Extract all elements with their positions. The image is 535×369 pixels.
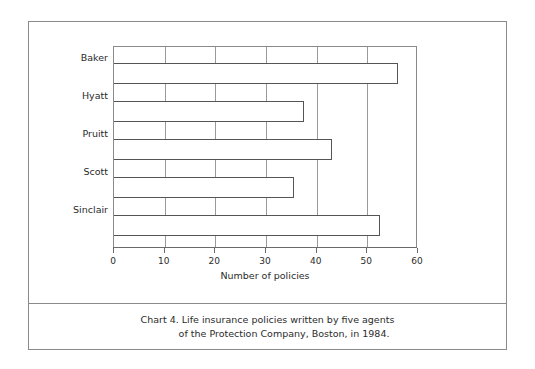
x-tick-label-10: 10 <box>158 256 169 266</box>
x-tick-10 <box>164 248 165 253</box>
x-tick-label-20: 20 <box>209 256 220 266</box>
x-tick-30 <box>265 248 266 253</box>
x-tick-0 <box>113 248 114 253</box>
caption-line-1: Chart 4. Life insurance policies written… <box>141 313 395 327</box>
chart-panel: Baker Hyatt Pruitt Scott Sinclair <box>29 22 506 303</box>
x-tick-40 <box>316 248 317 253</box>
x-tick-label-60: 60 <box>411 256 422 266</box>
x-tick-label-40: 40 <box>310 256 321 266</box>
x-tick-50 <box>366 248 367 253</box>
category-label-hyatt: Hyatt <box>82 90 108 101</box>
bar-sinclair[interactable] <box>114 215 380 236</box>
x-tick-label-50: 50 <box>361 256 372 266</box>
x-tick-label-30: 30 <box>259 256 270 266</box>
category-label-scott: Scott <box>83 166 108 177</box>
x-axis-title: Number of policies <box>113 270 417 281</box>
chart-caption: Chart 4. Life insurance policies written… <box>141 313 395 341</box>
figure-frame: Baker Hyatt Pruitt Scott Sinclair <box>28 21 507 350</box>
plot-area <box>113 46 417 247</box>
bar-hyatt[interactable] <box>114 101 304 122</box>
category-label-pruitt: Pruitt <box>82 128 108 139</box>
caption-panel: Chart 4. Life insurance policies written… <box>29 303 506 350</box>
x-tick-label-0: 0 <box>110 256 116 266</box>
x-tick-60 <box>417 248 418 253</box>
x-tick-20 <box>214 248 215 253</box>
bar-pruitt[interactable] <box>114 139 332 160</box>
category-label-baker: Baker <box>81 52 108 63</box>
category-label-sinclair: Sinclair <box>73 204 108 215</box>
bar-scott[interactable] <box>114 177 294 198</box>
bar-baker[interactable] <box>114 63 398 84</box>
x-axis: 0 10 20 30 40 50 60 <box>113 247 417 248</box>
caption-line-2: of the Protection Company, Boston, in 19… <box>141 327 395 341</box>
